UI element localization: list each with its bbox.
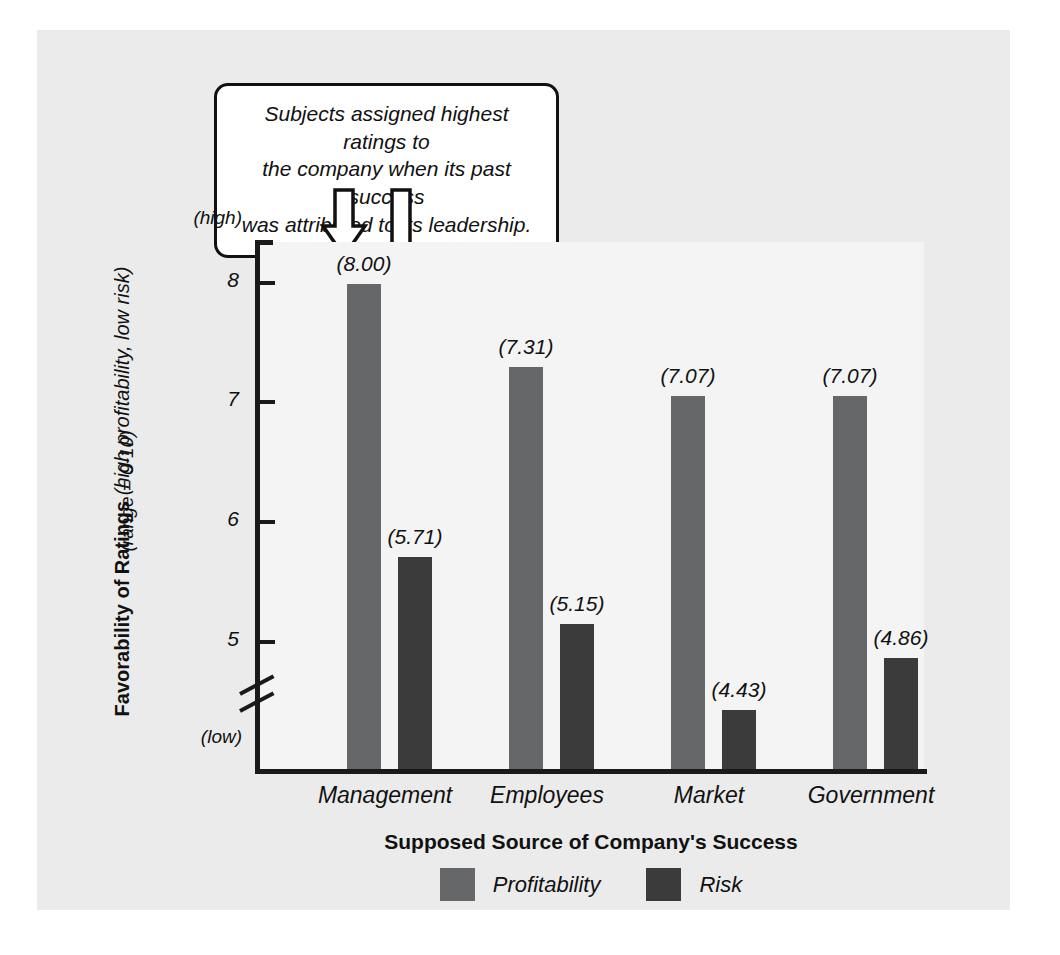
y-tick-6 bbox=[258, 520, 275, 524]
y-tick-label-5: 5 bbox=[199, 627, 239, 651]
legend-label-risk: Risk bbox=[699, 872, 742, 898]
bar-group-market: (7.07) (4.43) bbox=[619, 242, 799, 769]
bar-management-risk[interactable] bbox=[398, 557, 432, 769]
y-axis-cap-top bbox=[255, 240, 273, 245]
bar-group-employees: (7.31) (5.15) bbox=[457, 242, 637, 769]
legend-label-profitability: Profitability bbox=[493, 872, 601, 898]
bar-label-employees-profitability: (7.31) bbox=[471, 335, 581, 359]
y-axis-range-note: (range = 0-10) bbox=[116, 341, 138, 641]
bar-employees-profitability[interactable] bbox=[509, 367, 543, 769]
y-tick-7 bbox=[258, 400, 275, 404]
legend-entry-risk[interactable]: Risk bbox=[646, 868, 742, 901]
bar-label-management-profitability: (8.00) bbox=[309, 252, 419, 276]
bar-label-management-risk: (5.71) bbox=[360, 525, 470, 549]
legend-swatch-profitability-icon bbox=[440, 868, 475, 901]
y-tick-8 bbox=[258, 281, 275, 285]
axis-break-slash-2 bbox=[239, 691, 274, 712]
figure-panel: Subjects assigned highest ratings to the… bbox=[37, 30, 1010, 910]
bar-market-risk[interactable] bbox=[722, 710, 756, 769]
bar-group-government: (7.07) (4.86) bbox=[781, 242, 961, 769]
bar-group-management: (8.00) (5.71) bbox=[295, 242, 475, 769]
y-axis-high-label: (high) bbox=[152, 207, 242, 229]
y-axis-low-label: (low) bbox=[152, 726, 242, 748]
bar-label-employees-risk: (5.15) bbox=[522, 592, 632, 616]
y-tick-5 bbox=[258, 640, 275, 644]
legend-entry-profitability[interactable]: Profitability bbox=[440, 868, 601, 901]
y-tick-label-8: 8 bbox=[199, 268, 239, 292]
x-label-government: Government bbox=[776, 782, 966, 809]
y-axis-break bbox=[240, 678, 282, 724]
legend-swatch-risk-icon bbox=[646, 868, 681, 901]
bar-government-profitability[interactable] bbox=[833, 396, 867, 769]
bar-employees-risk[interactable] bbox=[560, 624, 594, 769]
y-tick-label-7: 7 bbox=[199, 387, 239, 411]
bar-label-government-profitability: (7.07) bbox=[795, 364, 905, 388]
x-axis-line bbox=[255, 769, 927, 774]
x-axis-title: Supposed Source of Company's Success bbox=[258, 830, 924, 854]
bar-label-market-risk: (4.43) bbox=[684, 678, 794, 702]
bar-label-market-profitability: (7.07) bbox=[633, 364, 743, 388]
bar-market-profitability[interactable] bbox=[671, 396, 705, 769]
bar-label-government-risk: (4.86) bbox=[846, 626, 956, 650]
y-tick-label-6: 6 bbox=[199, 507, 239, 531]
bar-government-risk[interactable] bbox=[884, 658, 918, 769]
legend: Profitability Risk bbox=[258, 868, 924, 901]
